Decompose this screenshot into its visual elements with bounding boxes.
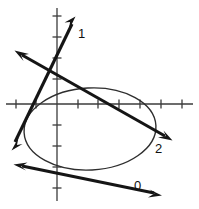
coordinate-plane-svg: 1 2 0 xyxy=(0,0,199,209)
line-1-label: 1 xyxy=(78,26,85,41)
line-2-label: 2 xyxy=(155,141,162,156)
line-0-label: 0 xyxy=(134,178,141,193)
line-1-segment xyxy=(15,24,72,142)
line-2-segment xyxy=(22,55,165,136)
conic-ellipse xyxy=(22,85,158,174)
graph-figure: 1 2 0 xyxy=(0,0,199,209)
line-1-group xyxy=(12,17,76,151)
